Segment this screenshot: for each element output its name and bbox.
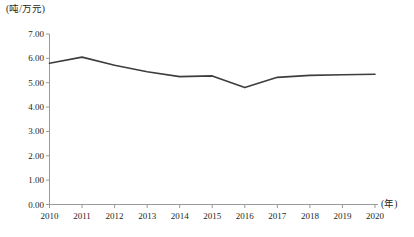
y-axis-ticks: [46, 34, 50, 205]
y-axis-tick-label: 5.00: [6, 78, 44, 88]
axis-lines: [50, 34, 379, 205]
x-axis-tick-label: 2020: [355, 211, 395, 221]
y-axis-tick-label: 1.00: [6, 175, 44, 185]
y-axis-tick-label: 6.00: [6, 53, 44, 63]
y-axis-tick-label: 3.00: [6, 126, 44, 136]
y-axis-tick-label: 7.00: [6, 29, 44, 39]
y-axis-tick-label: 0.00: [6, 200, 44, 210]
line-chart-figure: (吨/万元) (年) 0.001.002.003.004.005.006.007…: [0, 0, 414, 237]
y-axis-tick-label: 4.00: [6, 102, 44, 112]
chart-plot-area: [0, 0, 414, 237]
x-axis-ticks: [50, 205, 376, 209]
y-axis-tick-label: 2.00: [6, 151, 44, 161]
data-series-line: [50, 57, 376, 87]
